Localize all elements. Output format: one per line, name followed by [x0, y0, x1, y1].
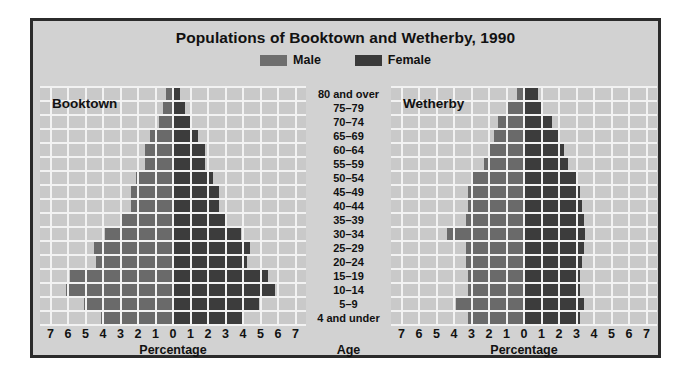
age-label: 55–59	[310, 157, 387, 171]
pyramid-row	[391, 269, 657, 283]
bar-male	[101, 312, 173, 324]
bar-female	[524, 88, 538, 100]
bar-female	[173, 312, 243, 324]
age-label: 30–34	[310, 227, 387, 241]
bar-male	[131, 200, 173, 212]
bar-male	[66, 284, 173, 296]
x-tick-label: 1	[538, 327, 545, 341]
legend-label-male: Male	[293, 53, 321, 67]
bar-female	[524, 200, 582, 212]
figure-caption	[30, 372, 661, 384]
bar-male	[468, 312, 524, 324]
pyramid-row	[40, 269, 306, 283]
bar-female	[173, 144, 205, 156]
x-tick-label: 5	[608, 327, 615, 341]
legend-label-female: Female	[388, 53, 431, 67]
bar-female	[173, 116, 191, 128]
pyramid-row	[40, 185, 306, 199]
bar-male	[473, 172, 524, 184]
age-label: 70–74	[310, 115, 387, 129]
pyramid-row	[391, 129, 657, 143]
bar-female	[524, 242, 584, 254]
x-tick-label: 2	[205, 327, 212, 341]
pyramid-row	[391, 255, 657, 269]
x-tick-label: 3	[222, 327, 229, 341]
bar-female	[173, 284, 275, 296]
x-tick-label: 3	[468, 327, 475, 341]
x-tick-label: 0	[521, 327, 528, 341]
pyramid-panel-booktown: Booktown 765432101234567 Percentage	[40, 87, 306, 315]
legend-swatch-male-icon	[260, 55, 287, 66]
age-label: 25–29	[310, 241, 387, 255]
bar-male	[136, 172, 173, 184]
x-tick-label: 2	[135, 327, 142, 341]
pyramid-row	[391, 185, 657, 199]
pyramid-row	[391, 143, 657, 157]
pyramid-row	[40, 297, 306, 311]
bar-male	[466, 242, 524, 254]
x-tick-label: 3	[117, 327, 124, 341]
age-label: 40–44	[310, 199, 387, 213]
bar-male	[105, 228, 173, 240]
bar-female	[173, 102, 185, 114]
legend-swatch-female-icon	[355, 55, 382, 66]
pyramid-row	[40, 227, 306, 241]
bar-female	[173, 200, 219, 212]
bar-male	[468, 284, 524, 296]
bar-male	[468, 186, 524, 198]
bar-female	[524, 270, 580, 282]
age-label: 35–39	[310, 213, 387, 227]
bar-female	[173, 88, 180, 100]
x-tick-label: 7	[398, 327, 405, 341]
bars-booktown	[40, 87, 306, 325]
x-tick-label: 7	[47, 327, 54, 341]
bar-female	[524, 172, 577, 184]
bar-female	[524, 186, 580, 198]
bar-female	[524, 102, 543, 114]
bar-female	[173, 298, 259, 310]
legend: Male Female	[33, 53, 658, 67]
bar-female	[173, 130, 198, 142]
pyramid-row	[40, 311, 306, 325]
age-label: 60–64	[310, 143, 387, 157]
pyramid-row	[40, 255, 306, 269]
pyramid-row	[391, 241, 657, 255]
bar-male	[517, 88, 524, 100]
age-label-column: 80 and over75–7970–7465–6960–6455–5950–5…	[310, 87, 387, 325]
age-axis-title: Age	[310, 343, 387, 357]
pyramid-row	[391, 297, 657, 311]
pyramid-row	[40, 241, 306, 255]
bar-male	[94, 242, 173, 254]
pyramid-row	[40, 171, 306, 185]
x-tick-label: 1	[187, 327, 194, 341]
x-tick-label: 1	[152, 327, 159, 341]
age-label: 80 and over	[310, 87, 387, 101]
bar-female	[524, 256, 582, 268]
pyramid-panel-wetherby: Wetherby 765432101234567 Percentage	[391, 87, 657, 315]
bar-female	[173, 172, 213, 184]
bar-male	[494, 130, 524, 142]
pyramid-row	[40, 157, 306, 171]
x-tick-label: 6	[275, 327, 282, 341]
chart-title: Populations of Booktown and Wetherby, 19…	[33, 29, 658, 47]
pyramid-row	[391, 115, 657, 129]
bar-male	[145, 158, 173, 170]
bar-male	[466, 214, 524, 226]
x-tick-label: 5	[82, 327, 89, 341]
age-label: 4 and under	[310, 311, 387, 325]
bar-female	[173, 270, 268, 282]
bar-female	[173, 214, 227, 226]
bar-male	[122, 214, 173, 226]
bar-male	[507, 102, 525, 114]
pyramid-row	[391, 311, 657, 325]
x-tick-label: 2	[486, 327, 493, 341]
age-label: 10–14	[310, 283, 387, 297]
panel-title-wetherby: Wetherby	[403, 96, 464, 111]
age-label: 65–69	[310, 129, 387, 143]
x-axis-label-wetherby: Percentage	[391, 343, 657, 357]
pyramid-row	[391, 213, 657, 227]
pyramid-row	[40, 143, 306, 157]
pyramid-row	[40, 213, 306, 227]
x-axis-wetherby: 765432101234567	[391, 327, 657, 343]
bar-male	[484, 158, 524, 170]
